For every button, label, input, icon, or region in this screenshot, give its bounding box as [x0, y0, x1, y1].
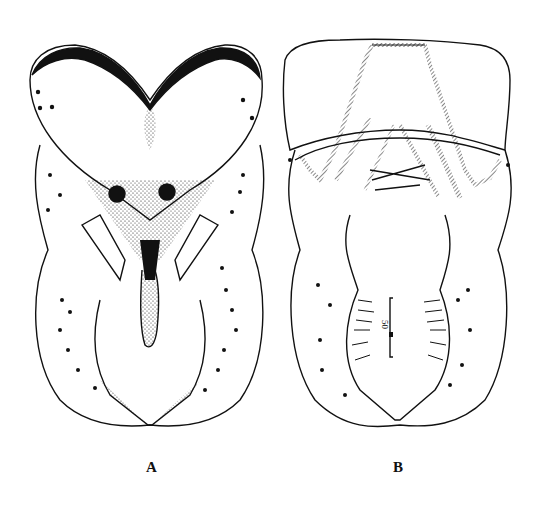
panel-b-drawing [283, 39, 511, 426]
scale-bar-label: 50 [380, 320, 390, 330]
panel-label-a: A [146, 459, 157, 476]
panel-a-drawing [30, 45, 264, 426]
figure-canvas: 50 [0, 0, 540, 510]
panel-label-b: B [393, 459, 403, 476]
